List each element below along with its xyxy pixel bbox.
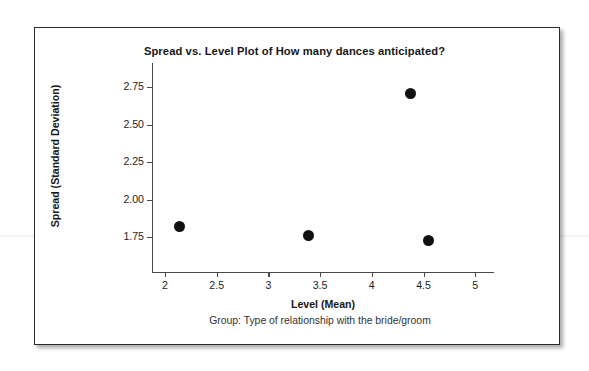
x-axis-title: Level (Mean)	[152, 298, 494, 310]
group-caption: Group: Type of relationship with the bri…	[100, 315, 540, 326]
y-axis-title: Spread (Standard Deviation)	[49, 46, 61, 266]
chart-title: Spread vs. Level Plot of How many dances…	[0, 45, 589, 57]
